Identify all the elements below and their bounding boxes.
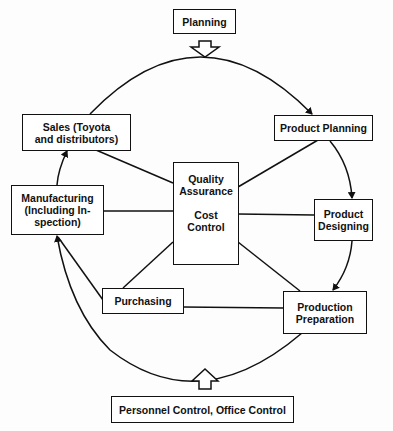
arc-product-planning-to-product-designing <box>330 141 352 198</box>
product-designing-label: Product Designing <box>318 208 369 232</box>
diagram-canvas: Planning Sales (Toyota and distributors)… <box>0 0 393 431</box>
spoke-sales <box>96 150 173 183</box>
cost-control-label: Cost Control <box>187 209 224 233</box>
quality-assurance-label: Quality Assurance <box>179 173 233 197</box>
spoke-purchasing <box>123 242 173 288</box>
production-preparation-label: Production Preparation <box>296 301 354 325</box>
production-preparation-box: Production Preparation <box>283 291 367 334</box>
personnel-office-control-label: Personnel Control, Office Control <box>119 404 286 416</box>
purchasing-box: Purchasing <box>102 288 184 314</box>
spoke-production-preparation <box>238 242 300 291</box>
personnel-office-control-box: Personnel Control, Office Control <box>111 396 294 423</box>
product-planning-box: Product Planning <box>274 115 373 141</box>
purchasing-label: Purchasing <box>114 295 171 307</box>
manufacturing-label: Manufacturing (Including In- spection) <box>21 192 93 228</box>
spoke-product-planning <box>238 140 318 187</box>
planning-box: Planning <box>173 9 236 34</box>
arc-product-designing-to-production-preparation <box>333 241 352 290</box>
arc-sales-to-product-planning <box>90 57 312 114</box>
manufacturing-box: Manufacturing (Including In- spection) <box>11 185 104 235</box>
planning-arrow-icon <box>191 41 219 57</box>
spoke-product-designing <box>238 214 314 215</box>
sales-box: Sales (Toyota and distributors) <box>22 114 131 151</box>
product-designing-box: Product Designing <box>314 199 373 241</box>
planning-label: Planning <box>182 16 226 28</box>
quality-cost-center-box: Quality Assurance Cost Control <box>173 162 239 265</box>
product-planning-label: Product Planning <box>280 122 367 134</box>
arc-manufacturing-to-sales <box>57 151 67 185</box>
personnel-arrow-icon <box>192 369 218 389</box>
link-purchasing-production-preparation <box>183 307 283 308</box>
sales-label: Sales (Toyota and distributors) <box>35 121 118 145</box>
